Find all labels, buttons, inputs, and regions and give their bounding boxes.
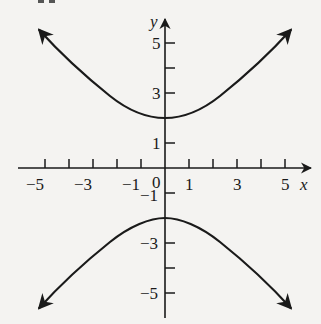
x-tick-label: −1 — [122, 175, 140, 194]
y-axis-label: y — [148, 12, 158, 31]
x-tick-label: 1 — [185, 175, 194, 194]
x-axis-label: x — [299, 175, 308, 194]
x-tick-label: −3 — [74, 175, 92, 194]
upper-branch-curve — [45, 56, 165, 152]
cropped-caption-fragment — [38, 0, 55, 3]
y-tick-label: −3 — [140, 234, 158, 253]
y-tick-label: 3 — [152, 84, 161, 103]
x-tick-label: 3 — [233, 175, 242, 194]
x-tick-label: −5 — [26, 175, 44, 194]
y-tick-label: −5 — [140, 284, 158, 303]
y-tick-label: 1 — [152, 134, 161, 153]
x-tick-label: 5 — [281, 175, 290, 194]
y-tick-label: −1 — [140, 186, 158, 205]
hyperbola-graph: −5 −3 −1 0 1 3 5 x 5 3 1 −1 −3 −5 y — [0, 0, 321, 324]
y-tick-label: 5 — [152, 34, 161, 53]
